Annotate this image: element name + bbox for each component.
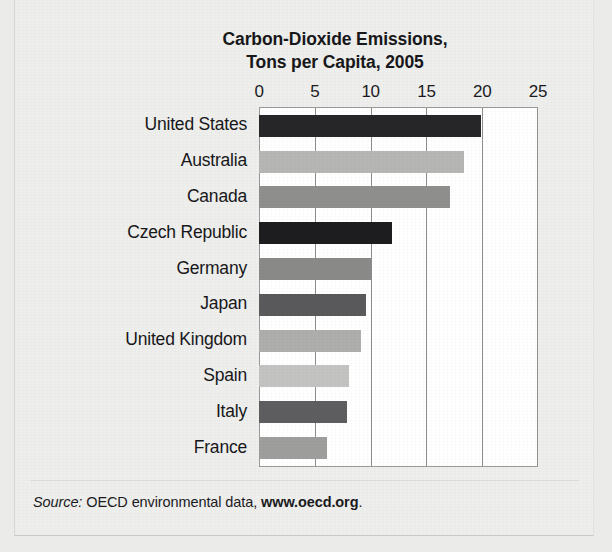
bar-row <box>259 323 538 359</box>
source-label: Source: <box>33 494 82 510</box>
x-tick-label-0: 0 <box>254 82 263 102</box>
bar-italy[interactable] <box>259 401 347 423</box>
y-axis-category-labels: United StatesAustraliaCanadaCzech Republ… <box>15 107 253 467</box>
chart-title-line-1: Carbon-Dioxide Emissions, <box>137 28 533 51</box>
cut-off-header-text <box>15 0 594 1</box>
bar-czech-republic[interactable] <box>259 222 392 244</box>
chart-title-line-2: Tons per Capita, 2005 <box>137 51 533 74</box>
source-divider <box>31 480 579 481</box>
source-body: OECD environmental data, <box>82 494 261 510</box>
bar-row <box>259 144 538 180</box>
category-label-czech-republic: Czech Republic <box>15 222 253 243</box>
x-tick-label-20: 20 <box>473 82 491 102</box>
bar-united-kingdom[interactable] <box>259 330 361 352</box>
bar-canada[interactable] <box>259 186 450 208</box>
bar-row <box>259 287 538 323</box>
x-tick-label-15: 15 <box>417 82 435 102</box>
bar-spain[interactable] <box>259 365 349 387</box>
category-label-united-states: United States <box>15 114 253 135</box>
source-url[interactable]: www.oecd.org <box>261 494 358 510</box>
category-label-france: France <box>15 437 253 458</box>
category-label-australia: Australia <box>15 150 253 171</box>
category-label-germany: Germany <box>15 258 253 279</box>
x-tick-label-5: 5 <box>310 82 319 102</box>
x-axis-tick-labels: 0510152025 <box>259 82 567 106</box>
bar-row <box>259 215 538 251</box>
plot-area <box>259 107 538 467</box>
bar-row <box>259 251 538 287</box>
bar-row <box>259 108 538 144</box>
source-period: . <box>358 494 362 510</box>
x-tick-label-25: 25 <box>529 82 547 102</box>
bar-row <box>259 430 538 466</box>
source-note: Source: OECD environmental data, www.oec… <box>33 494 362 510</box>
bar-japan[interactable] <box>259 294 366 316</box>
category-label-japan: Japan <box>15 293 253 314</box>
bar-row <box>259 394 538 430</box>
chart-title: Carbon-Dioxide Emissions, Tons per Capit… <box>137 28 533 74</box>
bar-row <box>259 359 538 395</box>
x-tick-label-10: 10 <box>361 82 379 102</box>
bar-united-states[interactable] <box>259 115 481 137</box>
bar-france[interactable] <box>259 437 327 459</box>
category-label-spain: Spain <box>15 365 253 386</box>
category-label-united-kingdom: United Kingdom <box>15 329 253 350</box>
bar-germany[interactable] <box>259 258 371 280</box>
category-label-italy: Italy <box>15 401 253 422</box>
bar-australia[interactable] <box>259 151 464 173</box>
category-label-canada: Canada <box>15 186 253 207</box>
bar-row <box>259 180 538 216</box>
figure-plate: Carbon-Dioxide Emissions, Tons per Capit… <box>14 0 594 536</box>
